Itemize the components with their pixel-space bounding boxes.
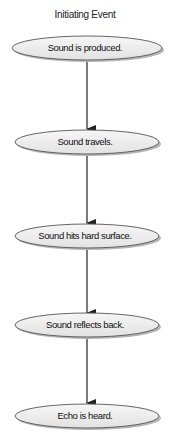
flowchart-canvas: [0, 0, 170, 438]
node-label-sound-reflects: Sound reflects back.: [0, 319, 170, 331]
node-label-sound-hits-surface: Sound hits hard surface.: [0, 230, 170, 242]
node-label-echo-heard: Echo is heard.: [0, 410, 170, 422]
node-label-sound-travels: Sound travels.: [0, 136, 170, 148]
node-label-sound-produced: Sound is produced.: [0, 42, 170, 54]
